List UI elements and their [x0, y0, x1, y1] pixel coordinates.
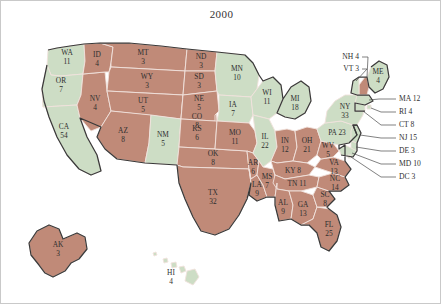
state-label-wa: WA: [61, 48, 73, 57]
state-votes-az: 8: [121, 135, 125, 144]
state-votes-mi: 18: [291, 103, 299, 112]
state-label-az: AZ: [118, 126, 128, 135]
state-label-mn: MN: [231, 64, 244, 73]
state-label-or: OR: [56, 76, 66, 85]
state-votes-mo: 11: [231, 137, 238, 146]
state-label-ga: GA: [298, 200, 309, 209]
state-label-id: ID: [93, 50, 101, 59]
state-votes-wi: 11: [263, 97, 270, 106]
state-label-hi: HI: [167, 268, 175, 277]
state-label-in: IN: [281, 136, 289, 145]
state-label-va: VA: [329, 158, 339, 167]
state-label-fl: FL: [325, 220, 334, 229]
state-label-sc: SC: [320, 190, 329, 199]
state-label-mt: MT: [137, 48, 149, 57]
state-votes-ak: 3: [56, 249, 60, 258]
state-votes-wa: 11: [63, 57, 70, 66]
state-votes-id: 4: [95, 59, 99, 68]
state-label-wv: WV: [322, 141, 335, 150]
state-label-ny: NY: [340, 102, 351, 111]
callout-dc: DC 3: [399, 172, 415, 181]
state-label-ky: KY 8: [285, 166, 301, 175]
state-label-ne: NE: [194, 94, 204, 103]
state-label-pa: PA 23: [328, 128, 346, 137]
callout-nh: NH 4: [342, 52, 359, 61]
callout-ma-leader-line: [369, 99, 396, 100]
state-label-ia: IA: [229, 100, 237, 109]
state-votes-ks: 6: [195, 133, 199, 142]
callout-nh-leader-line: [362, 57, 368, 77]
state-label-la: LA: [252, 180, 263, 189]
state-label-mo: MO: [229, 128, 242, 137]
state-votes-al: 9: [281, 207, 285, 216]
state-votes-ne: 5: [197, 103, 201, 112]
callout-ma: MA 12: [399, 94, 421, 103]
state-votes-nm: 5: [161, 139, 165, 148]
state-label-co: CO: [192, 112, 203, 121]
state-votes-wv: 5: [326, 150, 330, 159]
state-votes-nv: 4: [93, 103, 97, 112]
state-votes-nd: 3: [199, 61, 203, 70]
state-votes-ok: 8: [211, 158, 215, 167]
state-votes-nc: 14: [331, 183, 339, 192]
callout-md: MD 10: [399, 159, 421, 168]
state-label-nm: NM: [157, 130, 169, 139]
state-votes-ny: 33: [341, 111, 349, 120]
state-label-wi: WI: [262, 88, 272, 97]
state-votes-sd: 3: [197, 81, 201, 90]
state-label-ak: AK: [53, 240, 64, 249]
callout-dc-leader-line: [351, 157, 396, 177]
state-label-ut: UT: [138, 96, 148, 105]
state-votes-ut: 5: [141, 105, 145, 114]
state-votes-oh: 21: [303, 145, 311, 154]
state-label-nd: ND: [196, 52, 207, 61]
state-votes-in: 12: [281, 145, 289, 154]
state-label-ca: CA: [59, 122, 70, 131]
state-votes-or: 7: [59, 85, 63, 94]
state-votes-hi: 4: [169, 277, 173, 286]
state-votes-ms: 7: [265, 181, 269, 190]
callout-de: DE 3: [399, 146, 415, 155]
callout-nj: NJ 15: [399, 133, 417, 142]
state-label-oh: OH: [302, 136, 313, 145]
callout-de-leader-line: [356, 147, 396, 151]
state-label-ks: KS: [192, 124, 201, 133]
callout-ct-leader-line: [363, 111, 396, 125]
state-votes-ca: 54: [60, 131, 68, 140]
state-label-nv: NV: [90, 94, 101, 103]
state-votes-fl: 25: [325, 229, 333, 238]
state-votes-ga: 13: [299, 209, 307, 218]
state-label-ar: AR: [248, 158, 258, 167]
state-votes-sc: 8: [323, 199, 327, 208]
state-votes-la: 9: [255, 189, 259, 198]
state-label-al: AL: [278, 198, 288, 207]
state-votes-wy: 3: [145, 81, 149, 90]
state-hi[interactable]: [153, 252, 199, 285]
state-votes-va: 13: [330, 167, 338, 176]
callout-ri: RI 4: [399, 107, 412, 116]
state-votes-mt: 3: [141, 57, 145, 66]
state-label-wy: WY: [141, 72, 154, 81]
map-figure: 2000 WA11OR7CA54NV4ID4MT3WY3UT5AZ8NM5CO8…: [0, 0, 441, 304]
state-label-il: IL: [262, 132, 269, 141]
state-votes-il: 22: [261, 141, 269, 150]
callout-ct: CT 8: [399, 120, 414, 129]
state-votes-ia: 7: [231, 109, 235, 118]
state-label-me: ME: [372, 67, 384, 76]
state-label-tx: TX: [208, 188, 219, 197]
callout-ri-leader-line: [371, 108, 396, 112]
state-label-tn: TN 11: [288, 179, 307, 188]
state-votes-mn: 10: [233, 73, 241, 82]
state-label-sd: SD: [194, 72, 204, 81]
us-electoral-map: WA11OR7CA54NV4ID4MT3WY3UT5AZ8NM5CO8ND3SD…: [1, 19, 441, 304]
state-label-mi: MI: [290, 94, 300, 103]
state-label-ms: MS: [262, 172, 273, 181]
callout-vt: VT 3: [343, 64, 359, 73]
state-votes-tx: 32: [209, 197, 217, 206]
state-label-ok: OK: [208, 149, 219, 158]
callout-nj-leader-line: [360, 135, 396, 138]
state-votes-ar: 6: [251, 167, 255, 176]
state-ri[interactable]: [367, 105, 371, 109]
state-votes-me: 4: [376, 76, 380, 85]
